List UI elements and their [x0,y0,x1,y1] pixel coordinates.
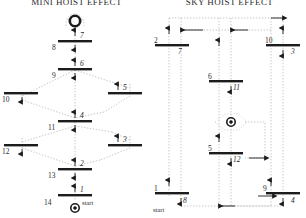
transition-r5-r12: 5 12 [208,136,243,164]
label-t4: 4 [80,111,84,120]
right-diagram: 2 7 10 3 6 11 [153,0,306,218]
transition-r10-r3: 10 3 [265,28,300,56]
transition-2-13: 2 13 [48,159,92,180]
label-r12: 12 [233,155,241,164]
transition-4-11: 4 11 [48,111,92,132]
label-t11: 11 [48,123,55,132]
label-r1: 1 [154,184,158,193]
label-r11: 11 [233,83,240,92]
label-r9: 9 [263,184,267,193]
label-r3: 3 [290,47,295,56]
transition-r6-r11: 6 11 [208,40,243,92]
place-token-top [70,16,80,26]
label-t5: 5 [123,83,127,92]
label-r2: 2 [154,36,158,45]
label-r6: 6 [208,72,212,81]
label-r10: 10 [265,36,273,45]
transition-5: 5 [108,83,142,94]
label-t6: 6 [80,59,84,68]
transition-r1-r8: 1 8 start [153,180,189,213]
label-r5: 5 [208,144,212,153]
label-t14: 14 [44,198,52,207]
transition-7-8: 7 8 [52,30,92,52]
label-r7: 7 [178,47,182,56]
petri-net-figure: MINI HOIST EFFECT [0,0,306,218]
transition-6-9: 6 9 [52,59,92,80]
transition-12: 12 [2,144,38,156]
start-label-left: start [82,199,93,206]
transition-r9-r4: 9 4 [263,180,300,205]
transition-r2-r7: 2 7 [154,28,189,56]
label-r8: 8 [183,196,187,205]
transition-3: 3 [108,135,142,146]
transition-10: 10 [2,92,38,104]
place-token-right [215,114,247,130]
label-t3: 3 [122,135,127,144]
label-t9: 9 [52,71,56,80]
label-t13: 13 [48,171,56,180]
label-t7: 7 [80,31,84,40]
panel-sky-hoist: SKY HOIST EFFECT [153,0,306,218]
label-t12: 12 [2,147,10,156]
panel-mini-hoist: MINI HOIST EFFECT [0,0,153,218]
label-t8: 8 [52,43,56,52]
label-t1: 1 [80,185,84,194]
start-label-right: start [153,206,164,213]
label-t2: 2 [80,159,84,168]
label-t10: 10 [2,95,10,104]
label-r4: 4 [291,196,295,205]
place-start-left [71,204,79,212]
left-diagram: 7 8 6 9 5 10 [0,0,153,218]
